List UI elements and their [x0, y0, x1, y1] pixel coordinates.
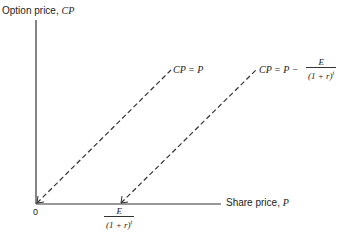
- x-marker-frac-den-text: (1 + r): [106, 220, 131, 230]
- line-cp-equals-p: [37, 70, 171, 203]
- line2-frac-num: E: [316, 57, 326, 67]
- line2-label-prefix: CP = P −: [259, 64, 299, 75]
- line-cp-equals-p-minus-pv: [121, 70, 256, 203]
- x-marker-frac-num: E: [114, 206, 124, 216]
- line2-frac-den: (1 + r)t: [306, 67, 336, 81]
- y-axis-label-text: Option price,: [2, 5, 61, 16]
- line1-label: CP = P: [173, 64, 203, 75]
- y-axis-var: CP: [61, 5, 74, 16]
- diagram-canvas: [0, 0, 343, 238]
- line2-frac-exp: t: [333, 70, 335, 76]
- x-marker-frac-den: (1 + r)t: [104, 216, 134, 230]
- x-marker-fraction: E (1 + r)t: [104, 206, 134, 230]
- x-axis-label-text: Share price,: [226, 197, 283, 208]
- origin-label: 0: [33, 207, 38, 217]
- line2-fraction: E (1 + r)t: [306, 57, 336, 81]
- y-axis-label: Option price, CP: [2, 5, 74, 16]
- line2-frac-den-text: (1 + r): [308, 71, 333, 81]
- x-axis-label: Share price, P: [226, 197, 289, 208]
- x-marker-frac-exp: t: [131, 219, 133, 225]
- x-axis-var: P: [283, 197, 289, 208]
